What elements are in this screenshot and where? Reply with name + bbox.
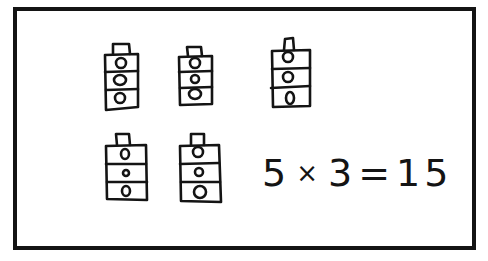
equals-sign: = bbox=[358, 148, 394, 198]
block-stack-3 bbox=[266, 36, 316, 110]
product-result: 15 bbox=[396, 148, 452, 198]
block-stack-1 bbox=[100, 40, 146, 114]
factor-b: 3 bbox=[328, 148, 356, 198]
block-stack-2 bbox=[175, 44, 219, 110]
block-stack-4 bbox=[101, 130, 153, 206]
block-stack-5 bbox=[174, 130, 228, 208]
multiplication-equation: 5×3=15 bbox=[262, 148, 422, 198]
times-sign: × bbox=[296, 148, 322, 198]
factor-a: 5 bbox=[262, 148, 290, 198]
drawing-frame bbox=[13, 7, 476, 250]
